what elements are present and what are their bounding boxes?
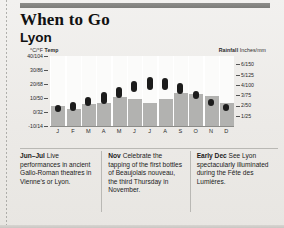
column-separator — [65, 56, 66, 126]
city-subtitle: Lyon — [20, 30, 52, 45]
column-separator — [81, 56, 82, 126]
temperature-range-marker — [147, 77, 153, 90]
page-background: When to Go Lyon °C/°F Temp Rainfall Inch… — [0, 0, 284, 228]
temperature-range-marker — [162, 78, 168, 89]
temperature-tick: -10/14 — [28, 123, 50, 129]
rainfall-bar — [127, 99, 142, 126]
header-rule — [20, 3, 270, 8]
temperature-tick: 10/50 — [30, 95, 50, 101]
rainfall-tick: 5/125 — [234, 72, 254, 78]
footer-rule — [0, 225, 284, 228]
note-item: Nov Celebrate the tapping of the first b… — [101, 152, 189, 216]
month-label: J — [133, 128, 136, 134]
rainfall-tick: 3/75 — [234, 92, 251, 98]
temperature-range-marker — [223, 104, 229, 111]
axis-baseline — [50, 126, 234, 127]
temperature-tick: 20/68 — [30, 81, 50, 87]
month-label: S — [178, 128, 182, 134]
rain-axis-units: Inches/mm — [238, 47, 266, 53]
page-margin-rule — [6, 0, 7, 228]
column-separator — [157, 56, 158, 126]
column-separator — [111, 56, 112, 126]
rainfall-tick: 6/150 — [234, 61, 254, 67]
climate-chart: °C/°F Temp Rainfall Inches/mm 40/10430/8… — [20, 47, 268, 145]
temperature-range-marker — [116, 87, 122, 98]
note-lead: Jun–Jul — [20, 152, 45, 159]
month-label: N — [209, 128, 213, 134]
month-label: O — [193, 128, 197, 134]
temperature-range-marker — [70, 102, 76, 110]
note-item: Early Dec See Lyon spectacularly illumin… — [190, 152, 278, 216]
notes-divider — [20, 148, 278, 149]
month-label: M — [117, 128, 122, 134]
temperature-range-marker — [193, 91, 199, 99]
month-label: A — [163, 128, 167, 134]
note-lead: Nov — [108, 152, 120, 159]
rainfall-bar — [65, 109, 80, 127]
month-axis-labels: JFMAMJJASOND — [50, 128, 234, 138]
month-label: A — [102, 128, 106, 134]
month-label: D — [224, 128, 228, 134]
seasonal-notes: Jun–Jul Live performances in ancient Gal… — [20, 152, 278, 216]
column-separator — [173, 56, 174, 126]
column-separator — [203, 56, 204, 126]
rain-axis-title: Rainfall Inches/mm — [219, 47, 266, 53]
rainfall-bar — [81, 104, 96, 126]
rainfall-tick: 2/50 — [234, 102, 251, 108]
note-item: Jun–Jul Live performances in ancient Gal… — [20, 152, 101, 216]
column-separator — [188, 56, 189, 126]
rainfall-bar — [157, 99, 172, 126]
temperature-tick: 30/86 — [30, 67, 50, 73]
month-label: F — [71, 128, 74, 134]
plot-area: 40/10430/8620/6810/500/32-10/14 6/1505/1… — [50, 56, 234, 126]
temperature-range-marker — [177, 83, 183, 94]
month-label: J — [56, 128, 59, 134]
temperature-tick: 40/104 — [27, 53, 50, 59]
column-separator — [50, 56, 51, 126]
page-title: When to Go — [20, 10, 110, 30]
month-label: J — [148, 128, 151, 134]
temperature-range-marker — [55, 105, 61, 112]
column-separator — [142, 56, 143, 126]
column-separator — [96, 56, 97, 126]
rainfall-tick: 1/25 — [234, 113, 251, 119]
rain-axis-word: Rainfall — [219, 47, 239, 53]
temperature-range-marker — [101, 92, 107, 103]
note-lead: Early Dec — [197, 152, 227, 159]
column-separator — [219, 56, 220, 126]
rainfall-tick: 4/100 — [234, 82, 254, 88]
column-separator — [127, 56, 128, 126]
rainfall-bar — [111, 97, 126, 126]
rainfall-bar — [142, 103, 157, 126]
rainfall-bar — [173, 93, 188, 126]
temperature-tick: 0/32 — [33, 109, 50, 115]
month-label: M — [86, 128, 91, 134]
rainfall-bar — [96, 103, 111, 126]
